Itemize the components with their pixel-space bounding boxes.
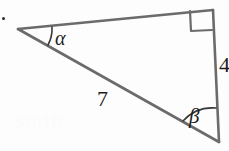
side-length-label-hypotenuse: 7 <box>97 88 108 110</box>
angle-label-alpha: α <box>55 28 66 48</box>
side-length-label-vertical: 4 <box>219 54 229 76</box>
beta-angle-arc <box>183 108 216 121</box>
angle-label-beta: β <box>189 106 199 127</box>
background-watermark: smtb <box>14 110 63 132</box>
alpha-angle-arc <box>48 27 52 45</box>
triangle-side-top <box>18 10 213 29</box>
right-angle-square-marker <box>190 11 212 31</box>
geometry-figure: α β 7 4 smtb <box>0 0 229 151</box>
